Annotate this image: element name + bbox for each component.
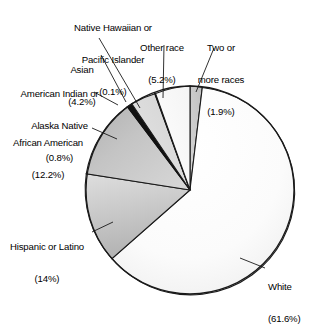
- label-white: White (61.6%): [268, 261, 310, 328]
- label-line: Hispanic or Latino: [2, 242, 92, 253]
- label-value: (1.9%): [188, 107, 254, 118]
- label-line: Two or: [188, 43, 254, 54]
- label-line: African American: [3, 138, 93, 149]
- label-african-american: African American (12.2%): [3, 117, 93, 202]
- label-hispanic-or-latino: Hispanic or Latino (14%): [2, 221, 92, 306]
- label-value: (61.6%): [268, 314, 310, 325]
- label-line: Other race: [131, 43, 193, 54]
- label-line: White: [268, 282, 310, 293]
- label-line: more races: [188, 75, 254, 86]
- label-value: (12.2%): [3, 170, 93, 181]
- label-value: (14%): [2, 274, 92, 285]
- label-line: American Indian or: [6, 89, 113, 100]
- label-two-or-more-races: Two or more races (1.9%): [188, 22, 254, 139]
- label-value: (5.2%): [131, 75, 193, 86]
- label-other-race: Other race (5.2%): [131, 22, 193, 107]
